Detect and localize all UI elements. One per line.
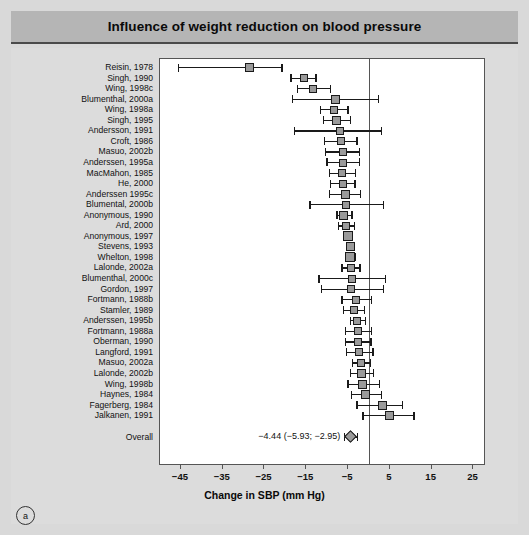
ci-upper-cap — [347, 106, 348, 114]
forest-plot-figure: Influence of weight reduction on blood p… — [0, 0, 529, 535]
forest-row — [160, 410, 484, 421]
ci-upper-cap — [351, 211, 352, 219]
forest-row — [160, 368, 484, 379]
ci-lower-cap — [345, 327, 346, 335]
forest-row — [160, 62, 484, 73]
x-axis-tick — [431, 465, 432, 469]
ci-upper-cap — [281, 64, 282, 72]
study-label: Blumenthal, 2000a — [11, 94, 153, 104]
ci-upper-cap — [383, 285, 384, 293]
effect-estimate-marker — [341, 190, 350, 199]
forest-row — [160, 389, 484, 400]
forest-row — [160, 241, 484, 252]
plot-area: −4.44 (−5.93; −2.95) — [159, 58, 485, 465]
forest-row — [160, 199, 484, 210]
ci-upper-cap — [413, 412, 414, 420]
ci-lower-cap — [341, 296, 342, 304]
ci-lower-cap — [320, 106, 321, 114]
forest-row — [160, 284, 484, 295]
ci-upper-cap — [359, 264, 360, 272]
effect-estimate-marker — [331, 95, 340, 104]
x-axis-tick — [222, 465, 223, 469]
ci-lower-cap — [292, 95, 293, 103]
ci-upper-cap — [402, 401, 403, 409]
ci-upper-cap — [383, 201, 384, 209]
ci-lower-cap — [351, 391, 352, 399]
effect-estimate-marker — [357, 359, 365, 367]
study-label: Wing, 1998a — [11, 104, 153, 114]
ci-lower-cap — [329, 190, 330, 198]
forest-row — [160, 347, 484, 358]
ci-upper-cap — [385, 275, 386, 283]
effect-estimate-marker — [347, 264, 355, 272]
ci-upper-cap — [355, 169, 356, 177]
ci-lower-cap — [341, 264, 342, 272]
overall-ci-upper-cap — [357, 433, 358, 441]
forest-row — [160, 115, 484, 126]
effect-estimate-marker — [346, 242, 355, 251]
ci-lower-cap — [345, 338, 346, 346]
x-axis-tick — [263, 465, 264, 469]
effect-estimate-marker — [354, 327, 362, 335]
effect-estimate-marker — [339, 159, 347, 167]
study-label: Jalkanen, 1991 — [11, 410, 153, 420]
forest-row — [160, 146, 484, 157]
ci-upper-cap — [381, 127, 382, 135]
ci-lower-cap — [290, 74, 291, 82]
study-label: Andersson, 1991 — [11, 125, 153, 135]
study-label: Anderssen 1995c — [11, 189, 153, 199]
study-label: Oberman, 1990 — [11, 336, 153, 346]
ci-lower-cap — [343, 306, 344, 314]
study-label: Haynes, 1984 — [11, 389, 153, 399]
ci-upper-cap — [379, 380, 380, 388]
study-label: MacMahon, 1985 — [11, 168, 153, 178]
overall-diamond — [344, 431, 357, 444]
study-label: Fortmann, 1988b — [11, 294, 153, 304]
forest-row — [160, 231, 484, 242]
ci-upper-cap — [359, 148, 360, 156]
effect-estimate-marker — [339, 148, 347, 156]
x-axis-tick — [472, 465, 473, 469]
effect-estimate-marker — [350, 306, 358, 314]
forest-row — [160, 136, 484, 147]
forest-row — [160, 73, 484, 84]
plot-panel: Reisin, 1978Singh, 1990Wing, 1998cBlumen… — [11, 48, 518, 524]
forest-row — [160, 210, 484, 221]
study-label: Fagerberg, 1984 — [11, 400, 153, 410]
page-title: Influence of weight reduction on blood p… — [108, 19, 422, 34]
forest-row — [160, 178, 484, 189]
ci-upper-cap — [315, 74, 316, 82]
study-label: Croft, 1986 — [11, 136, 153, 146]
ci-upper-cap — [372, 348, 373, 356]
ci-lower-cap — [362, 412, 363, 420]
x-axis-tick — [389, 465, 390, 469]
forest-row — [160, 252, 484, 263]
study-label: Masuo, 2002a — [11, 357, 153, 367]
forest-row — [160, 83, 484, 94]
study-label: Blumenthal, 2000c — [11, 273, 153, 283]
ci-lower-cap — [350, 317, 351, 325]
forest-row — [160, 189, 484, 200]
x-axis-tick — [347, 465, 348, 469]
study-label: Anderssen, 1995a — [11, 157, 153, 167]
ci-upper-cap — [364, 306, 365, 314]
x-axis-tick-label: 25 — [447, 471, 497, 482]
study-label: Lalonde, 2002a — [11, 262, 153, 272]
ci-upper-cap — [350, 116, 351, 124]
study-label: Blumental, 2000b — [11, 199, 153, 209]
study-label: Anderssen, 1995b — [11, 315, 153, 325]
study-label: Singh, 1995 — [11, 115, 153, 125]
ci-upper-cap — [359, 158, 360, 166]
study-label: Singh, 1990 — [11, 73, 153, 83]
effect-estimate-marker — [345, 252, 355, 262]
effect-estimate-marker — [300, 74, 308, 82]
ci-lower-cap — [356, 401, 357, 409]
confidence-interval-line — [178, 67, 282, 68]
forest-row — [160, 262, 484, 273]
forest-row — [160, 305, 484, 316]
x-axis-title: Change in SBP (mm Hg) — [11, 489, 518, 501]
ci-lower-cap — [297, 85, 298, 93]
forest-row — [160, 400, 484, 411]
forest-row — [160, 273, 484, 284]
overall-estimate-text: −4.44 (−5.93; −2.95) — [236, 431, 340, 441]
